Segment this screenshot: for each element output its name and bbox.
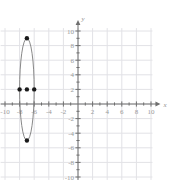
x-tick-label: 8 [135, 108, 139, 116]
x-axis-arrowhead [155, 102, 160, 107]
x-tick-label: 10 [148, 108, 156, 116]
y-axis-label: y [81, 15, 86, 23]
y-tick-label: -6 [68, 144, 74, 152]
plot-point [32, 87, 36, 91]
x-tick-label: 4 [105, 108, 109, 116]
x-tick-label: -10 [0, 108, 10, 116]
y-tick-label: 2 [71, 86, 75, 94]
y-tick-label: -4 [68, 130, 74, 138]
plot-point [17, 87, 21, 91]
y-tick-label: -10 [65, 174, 75, 182]
plot-point [25, 36, 29, 40]
y-tick-label: 10 [67, 28, 75, 36]
coordinate-plane-svg: -10-8-6-4-2246810108642-2-4-6-8-10xy [0, 0, 170, 183]
y-tick-label: -2 [68, 115, 74, 123]
x-tick-label: -6 [31, 108, 37, 116]
x-tick-label: 6 [120, 108, 124, 116]
x-tick-label: -2 [60, 108, 66, 116]
x-tick-label: 2 [91, 108, 95, 116]
y-tick-label: 6 [71, 57, 75, 65]
x-axis-label: x [162, 101, 167, 109]
y-axis-arrowhead [76, 20, 81, 25]
y-tick-label: 8 [71, 42, 75, 50]
x-tick-label: -4 [46, 108, 52, 116]
plot-point [25, 138, 29, 142]
graph-canvas: -10-8-6-4-2246810108642-2-4-6-8-10xy [0, 0, 170, 183]
y-tick-label: 4 [71, 71, 75, 79]
y-tick-label: -8 [68, 159, 74, 167]
plot-point [25, 87, 29, 91]
